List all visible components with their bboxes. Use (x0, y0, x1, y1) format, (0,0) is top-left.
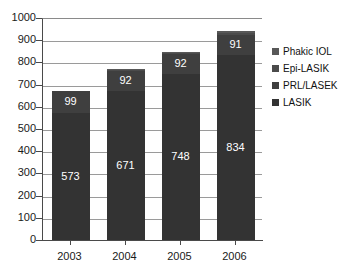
legend-item-label: Phakic IOL (283, 46, 332, 57)
bar-value-label: 573 (52, 171, 90, 182)
bar-segment (217, 31, 255, 33)
legend-item[interactable]: Phakic IOL (272, 44, 351, 59)
y-axis-label: 100 (2, 212, 36, 223)
bar-value-label: 92 (107, 75, 145, 86)
y-axis-label-wrap: 1000 (0, 12, 36, 23)
y-axis-label-wrap: 500 (0, 123, 36, 134)
bar-value-label: 92 (162, 58, 200, 69)
bar-stack: 671922 (107, 18, 145, 240)
y-axis-label-wrap: 700 (0, 79, 36, 90)
chart-legend: Phakic IOLEpi-LASIKPRL/LASEKLASIK (272, 44, 351, 112)
bar-value-label: 834 (217, 142, 255, 153)
y-axis-label: 1000 (2, 12, 36, 23)
legend-item[interactable]: PRL/LASEK (272, 78, 351, 93)
bar-stack: 57399 (52, 18, 90, 240)
legend-swatch-icon (272, 48, 279, 55)
x-axis-label: 2005 (152, 250, 207, 262)
x-axis-tick (125, 240, 126, 245)
x-axis-label: 2006 (207, 250, 262, 262)
bar-stack: 834919 (217, 18, 255, 240)
y-axis-label-wrap: 400 (0, 145, 36, 156)
y-axis-label-wrap: 0 (0, 234, 36, 245)
y-axis-label-wrap: 300 (0, 167, 36, 178)
y-axis-label: 400 (2, 145, 36, 156)
y-axis-label-wrap: 800 (0, 56, 36, 67)
x-axis-label: 2004 (97, 250, 152, 262)
y-axis-label-wrap: 200 (0, 190, 36, 201)
y-axis-label: 200 (2, 190, 36, 201)
bar-value-label: 99 (52, 96, 90, 107)
y-axis-label: 300 (2, 167, 36, 178)
y-axis-label: 700 (2, 79, 36, 90)
x-axis-tick (70, 240, 71, 245)
bar-segment (107, 69, 145, 70)
legend-item[interactable]: Epi-LASIK (272, 61, 351, 76)
legend-item-label: PRL/LASEK (283, 80, 337, 91)
y-axis-label: 900 (2, 34, 36, 45)
legend-swatch-icon (272, 82, 279, 89)
y-axis-label-wrap: 100 (0, 212, 36, 223)
legend-item-label: Epi-LASIK (283, 63, 329, 74)
legend-swatch-icon (272, 65, 279, 72)
bar-segment (162, 53, 200, 54)
stacked-bar-chart: 01002003004005006007008009001000 5739967… (0, 0, 351, 274)
legend-swatch-icon (272, 99, 279, 106)
x-axis-line (42, 240, 263, 241)
y-axis-label-wrap: 600 (0, 101, 36, 112)
bar-value-label: 748 (162, 151, 200, 162)
bar-value-label: 91 (217, 39, 255, 50)
plot-area: 57399671922748924834919 (42, 18, 262, 240)
x-axis-tick (180, 240, 181, 245)
bar-value-label: 4 (162, 46, 200, 52)
bar-segment (217, 33, 255, 35)
x-axis-tick (235, 240, 236, 245)
y-axis-label: 0 (2, 234, 36, 245)
bar-value-label: 671 (107, 160, 145, 171)
y-axis-label-wrap: 900 (0, 34, 36, 45)
y-axis-label: 500 (2, 123, 36, 134)
bar-stack: 748924 (162, 18, 200, 240)
y-axis-label: 600 (2, 101, 36, 112)
legend-item[interactable]: LASIK (272, 95, 351, 110)
legend-item-label: LASIK (283, 97, 311, 108)
y-axis-label: 800 (2, 56, 36, 67)
x-axis-label: 2003 (42, 250, 97, 262)
